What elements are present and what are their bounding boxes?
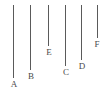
line-series: ABECDF	[0, 0, 107, 96]
vertical-line-e	[48, 5, 49, 46]
line-label-e: E	[44, 48, 54, 57]
vertical-line-f	[97, 5, 98, 38]
vertical-line-b	[30, 5, 31, 70]
line-label-a: A	[9, 80, 19, 89]
line-label-f: F	[92, 40, 102, 49]
vertical-line-d	[81, 5, 82, 60]
line-diagram-canvas: ABECDF	[0, 0, 107, 96]
line-label-b: B	[26, 72, 36, 81]
line-label-c: C	[61, 68, 71, 77]
vertical-line-c	[65, 5, 66, 66]
vertical-line-a	[13, 5, 14, 78]
line-label-d: D	[77, 62, 87, 71]
